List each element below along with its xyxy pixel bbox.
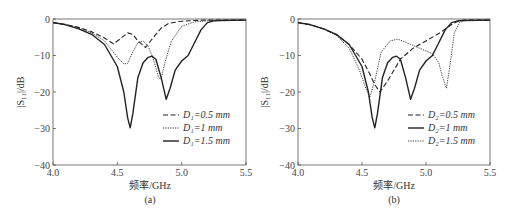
series-curve [53, 20, 246, 79]
series-curve [53, 20, 246, 47]
legend-label: D₂=1.5 mm [427, 135, 475, 146]
x-tick-label: 5.5 [240, 167, 253, 178]
x-tick-label: 5.0 [175, 167, 188, 178]
y-axis-label: |S₁₁|/dB [15, 76, 26, 107]
y-tick-label: −10 [279, 50, 295, 61]
legend-label: D₁=1 mm [182, 122, 222, 133]
y-tick-label: −30 [34, 123, 50, 134]
x-tick-label: 5.0 [420, 167, 433, 178]
y-tick-label: −40 [34, 160, 50, 171]
x-tick-label: 5.5 [484, 167, 497, 178]
x-axis-label: 频率/GHz [129, 179, 171, 191]
x-tick-label: 4.5 [356, 167, 369, 178]
panel-label: (a) [144, 194, 155, 206]
y-tick-label: −20 [279, 87, 295, 98]
y-tick-label: 0 [45, 14, 50, 25]
series-curve [298, 20, 490, 97]
axis-ticks: 4.04.55.05.50−10−20−30−40 [279, 14, 496, 179]
legend-label: D₂=0.5 mm [427, 109, 475, 120]
y-tick-label: −30 [279, 123, 295, 134]
x-axis-label: 频率/GHz [373, 179, 415, 191]
y-tick-label: −10 [34, 50, 50, 61]
s11-charts: 4.04.55.05.50−10−20−30−40 D₁=0.5 mmD₁=1 … [0, 0, 511, 217]
panel-a: 4.04.55.05.50−10−20−30−40 D₁=0.5 mmD₁=1 … [15, 14, 252, 207]
panel-label: (b) [388, 194, 400, 206]
legend: D₂=0.5 mmD₂=1 mmD₂=1.5 mm [408, 109, 475, 146]
legend-label: D₂=1 mm [427, 122, 467, 133]
axis-ticks: 4.04.55.05.50−10−20−30−40 [34, 14, 252, 179]
legend-label: D₁=0.5 mm [182, 109, 230, 120]
panel-b: 4.04.55.05.50−10−20−30−40 D₂=0.5 mmD₂=1 … [259, 14, 496, 207]
x-tick-label: 4.5 [111, 167, 124, 178]
legend: D₁=0.5 mmD₁=1 mmD₁=1.5 mm [163, 109, 230, 146]
y-tick-label: −20 [34, 87, 50, 98]
y-tick-label: 0 [290, 14, 295, 25]
y-axis-label: |S₁₁|/dB [259, 76, 270, 107]
y-tick-label: −40 [279, 160, 295, 171]
legend-label: D₁=1.5 mm [182, 135, 230, 146]
